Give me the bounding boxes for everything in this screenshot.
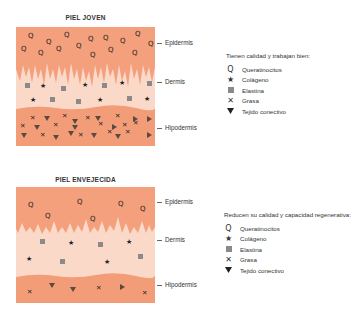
young-legend: Tienen calidad y trabajan bien: Q Querat… — [226, 52, 363, 117]
svg-text:✕: ✕ — [53, 121, 58, 129]
aged-skin-diagram: QQQ QQQ ★★ ★★ ✕✕✕ — [16, 187, 155, 303]
svg-text:✕: ✕ — [98, 120, 103, 128]
legend-item-queratinocitos: Q Queratinocitos — [226, 64, 363, 75]
legend-item-grasa: ✕ Grasa — [226, 96, 363, 107]
svg-text:✕: ✕ — [62, 112, 67, 120]
svg-text:★: ★ — [68, 239, 74, 247]
star-icon: ★ — [226, 75, 235, 84]
svg-text:✕: ✕ — [96, 284, 101, 292]
svg-text:★: ★ — [30, 96, 36, 104]
svg-text:★: ★ — [26, 255, 32, 263]
svg-text:Q: Q — [64, 31, 70, 39]
svg-text:Q: Q — [76, 42, 82, 50]
young-epidermis-label: Epidermis — [157, 39, 193, 46]
svg-text:Q: Q — [90, 51, 96, 59]
svg-text:Q: Q — [28, 32, 34, 40]
x-icon: ✕ — [224, 255, 233, 264]
svg-text:✕: ✕ — [78, 131, 83, 139]
legend-item-tejido-conectivo: Tejido conectivo — [226, 106, 363, 117]
svg-text:★: ★ — [144, 95, 150, 103]
svg-text:Q: Q — [45, 212, 51, 220]
young-legend-heading: Tienen calidad y trabajan bien: — [226, 52, 363, 60]
young-skin-diagram: QQQ QQQ QQ QQQ QQQ Q ★★★ ★★★ ✕✕✕ ✕✕✕ ✕✕✕… — [16, 27, 155, 146]
svg-text:✕: ✕ — [27, 288, 32, 296]
legend-item-colageno: ★ Colágeno — [224, 234, 359, 245]
legend-item-elastina: Elastina — [226, 85, 363, 96]
legend-item-tejido-conectivo: Tejido conectivo — [224, 265, 359, 276]
square-icon — [226, 86, 235, 95]
svg-text:Q: Q — [38, 49, 44, 57]
young-hipodermis-label: Hipodermis — [157, 124, 197, 131]
svg-text:✕: ✕ — [20, 122, 25, 130]
svg-text:Q: Q — [140, 205, 146, 213]
svg-text:✕: ✕ — [115, 112, 120, 120]
legend-item-queratinocitos: Q Queratinocitos — [224, 223, 359, 234]
svg-text:★: ★ — [119, 79, 125, 87]
svg-text:Q: Q — [21, 45, 27, 53]
svg-text:Q: Q — [28, 201, 34, 209]
svg-text:★: ★ — [82, 81, 88, 89]
svg-text:✕: ✕ — [125, 128, 130, 136]
svg-text:✕: ✕ — [85, 114, 90, 122]
legend-item-colageno: ★ Colágeno — [226, 75, 363, 86]
triangle-icon — [224, 266, 233, 275]
svg-text:Q: Q — [103, 34, 109, 42]
svg-text:Q: Q — [46, 38, 52, 46]
aged-hipodermis-label: Hipodermis — [157, 281, 197, 288]
svg-text:Q: Q — [118, 200, 124, 208]
legend-item-elastina: Elastina — [224, 244, 359, 255]
q-icon: Q — [226, 65, 235, 74]
svg-text:Q: Q — [90, 215, 96, 223]
aged-epidermis-label: Epidermis — [157, 198, 193, 205]
young-skin-title: PIEL JOVEN — [16, 14, 155, 21]
svg-text:✕: ✕ — [30, 114, 35, 122]
svg-text:Q: Q — [135, 30, 141, 38]
legend-item-grasa: ✕ Grasa — [224, 255, 359, 266]
svg-text:★: ★ — [40, 82, 46, 90]
young-dermis-label: Dermis — [157, 78, 185, 85]
svg-text:Q: Q — [120, 37, 126, 45]
aged-skin-title: PIEL ENVEJECIDA — [16, 176, 155, 183]
svg-text:Q: Q — [77, 198, 83, 206]
aged-legend: Reducen su calidad y capacidad regenerat… — [224, 211, 359, 276]
svg-text:✕: ✕ — [107, 128, 112, 136]
svg-text:Q: Q — [148, 40, 154, 48]
svg-text:✕: ✕ — [142, 289, 147, 297]
aged-legend-heading: Reducen su calidad y capacidad regenerat… — [224, 211, 359, 219]
svg-text:★: ★ — [126, 238, 132, 246]
q-icon: Q — [224, 224, 233, 233]
triangle-icon — [226, 107, 235, 116]
star-icon: ★ — [224, 234, 233, 243]
svg-text:✕: ✕ — [40, 131, 45, 139]
svg-text:Q: Q — [56, 45, 62, 53]
square-icon — [224, 245, 233, 254]
svg-text:Q: Q — [88, 35, 94, 43]
svg-text:Q: Q — [132, 49, 138, 57]
aged-dermis-label: Dermis — [157, 236, 185, 243]
x-icon: ✕ — [226, 96, 235, 105]
svg-text:★: ★ — [104, 258, 110, 266]
svg-text:★: ★ — [97, 96, 103, 104]
svg-text:Q: Q — [108, 46, 114, 54]
